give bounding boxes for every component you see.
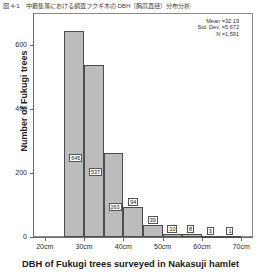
x-tick-label: 50cm — [150, 243, 176, 250]
x-tick-mark — [163, 237, 164, 241]
y-tick-mark — [30, 45, 34, 46]
figure-caption: 図 4-1 中筋集落における調査フクギ木の DBH（胸高直径）分布分析 — [3, 0, 258, 11]
histogram-bar — [163, 234, 183, 237]
x-axis-title: DBH of Fukugi trees surveyed in Nakasuji… — [0, 259, 261, 269]
histogram-bar — [64, 31, 84, 237]
stat-n: N =1,591 — [198, 31, 239, 37]
x-tick-label: 40cm — [110, 243, 136, 250]
y-axis-line — [33, 13, 34, 237]
figure-root: 図 4-1 中筋集落における調査フクギ木の DBH（胸高直径）分布分析 Numb… — [0, 0, 261, 274]
x-tick-label: 60cm — [189, 243, 215, 250]
y-tick-label: 400 — [1, 105, 27, 112]
histogram-bar — [123, 207, 143, 237]
y-tick-mark — [30, 237, 34, 238]
y-tick-mark — [30, 173, 34, 174]
x-tick-mark — [202, 237, 203, 241]
x-tick-mark — [45, 237, 46, 241]
bar-value-label: 8 — [187, 225, 194, 233]
bar-value-label: 1 — [226, 227, 233, 235]
x-tick-label: 70cm — [228, 243, 254, 250]
bar-value-label: 3 — [207, 227, 214, 235]
histogram-bar — [143, 225, 163, 237]
bar-value-label: 645 — [69, 154, 82, 162]
histogram-bar — [182, 234, 202, 237]
x-tick-label: 30cm — [71, 243, 97, 250]
x-tick-mark — [241, 237, 242, 241]
histogram-bar — [84, 65, 104, 237]
y-tick-label: 0 — [1, 233, 27, 240]
stats-annotation: Mean =32.19 Std. Dev. =5.672 N =1,591 — [198, 18, 239, 37]
bar-value-label: 263 — [109, 203, 122, 211]
y-tick-label: 200 — [1, 169, 27, 176]
y-tick-label: 600 — [1, 41, 27, 48]
y-tick-mark — [30, 109, 34, 110]
bar-value-label: 537 — [89, 168, 102, 176]
stat-std-dev: Std. Dev. =5.672 — [198, 24, 239, 30]
histogram-bar — [222, 236, 242, 238]
histogram-bar — [104, 153, 124, 237]
x-tick-mark — [84, 237, 85, 241]
histogram-bar — [202, 236, 222, 238]
bar-value-label: 10 — [167, 225, 177, 233]
y-axis-title: Number of Fukugi trees — [19, 11, 29, 191]
bar-value-label: 94 — [128, 198, 138, 206]
x-tick-label: 20cm — [32, 243, 58, 250]
x-tick-mark — [123, 237, 124, 241]
bar-value-label: 39 — [148, 216, 158, 224]
